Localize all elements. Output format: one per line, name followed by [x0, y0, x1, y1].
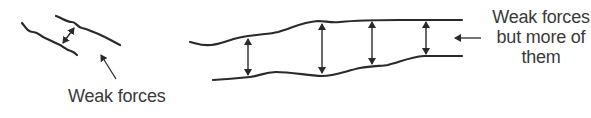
long-chain-top	[190, 20, 462, 45]
short-chain-lower	[22, 23, 77, 55]
more-forces-label-line-1: Weak forces	[486, 7, 591, 27]
long-chain-bottom	[213, 56, 462, 80]
more-forces-label-line-3: them	[486, 47, 591, 67]
more-forces-label-line-2: but more of	[486, 27, 591, 47]
short-chain-upper	[56, 16, 120, 45]
more-forces-label: Weak forces but more of them	[486, 7, 591, 67]
weak-force-double-arrow	[63, 28, 74, 43]
weak-forces-label: Weak forces	[68, 86, 166, 106]
weak-forces-pointer-arrow	[101, 55, 116, 79]
